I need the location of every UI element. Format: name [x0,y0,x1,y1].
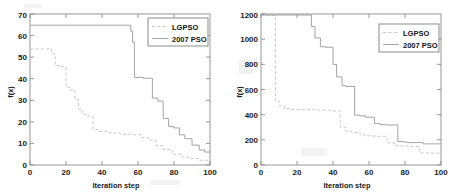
x-tick-label: 0 [259,168,264,177]
legend-label-lgpso: LGPSO [172,23,198,32]
legend-label-2007pso: 2007 PSO [172,35,207,44]
right-legend: LGPSO 2007 PSO [379,24,439,52]
x-tick-label: 20 [293,168,302,177]
left-xaxis-title: Iteration step [92,181,140,190]
y-tick-label: 60 [18,32,27,41]
legend-label-2007pso: 2007 PSO [403,41,438,50]
right-x-tick-labels: 0 20 40 60 80 100 [259,168,448,177]
left-plot-svg: 0 10 20 30 40 50 60 70 0 20 40 60 80 100… [0,0,231,194]
y-tick-label: 50 [18,53,27,62]
chart-panel-left: 0 10 20 30 40 50 60 70 0 20 40 60 80 100… [0,0,231,194]
x-tick-label: 40 [329,168,338,177]
y-tick-label: 600 [245,86,259,95]
x-tick-label: 60 [134,168,143,177]
scan-artifact [150,180,180,185]
left-legend: LGPSO 2007 PSO [148,18,208,46]
left-x-tick-labels: 0 20 40 60 80 100 [28,168,217,177]
scan-artifact [301,148,327,156]
y-tick-label: 40 [18,75,27,84]
scan-artifact [24,4,42,8]
figure-canvas: 0 10 20 30 40 50 60 70 0 20 40 60 80 100… [0,0,462,194]
x-tick-label: 60 [365,168,374,177]
x-tick-label: 20 [62,168,71,177]
series-line-lgpso [30,49,210,160]
y-tick-label: 1200 [240,11,258,20]
y-tick-label: 800 [245,60,259,69]
legend-label-lgpso: LGPSO [403,29,429,38]
x-tick-label: 80 [170,168,179,177]
right-plot-svg: 0 200 400 600 800 1000 1200 0 20 40 60 8… [231,0,462,194]
chart-panel-right: 0 200 400 600 800 1000 1200 0 20 40 60 8… [231,0,462,194]
y-tick-label: 1000 [240,35,258,44]
y-tick-label: 70 [18,11,27,20]
right-yaxis-title: f(x) [235,86,244,98]
left-y-tick-labels: 0 10 20 30 40 50 60 70 [18,11,27,171]
y-tick-label: 10 [18,139,27,148]
y-tick-label: 400 [245,111,259,120]
y-tick-label: 20 [18,118,27,127]
y-tick-label: 200 [245,136,259,145]
right-xaxis-title: Iteration step [323,181,371,190]
x-tick-label: 0 [28,168,33,177]
y-tick-label: 30 [18,96,27,105]
x-tick-label: 80 [401,168,410,177]
x-tick-label: 100 [434,168,448,177]
left-yaxis-title: f(x) [6,86,15,98]
x-tick-label: 40 [98,168,107,177]
x-tick-label: 100 [203,168,217,177]
